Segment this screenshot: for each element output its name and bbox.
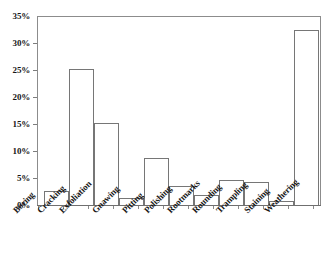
y-tick-label-5: 5% <box>17 174 30 183</box>
y-tick-label-15: 15% <box>13 120 30 129</box>
y-tick-label-35: 35% <box>13 12 30 21</box>
y-tick-label-25: 25% <box>13 66 30 75</box>
y-tick-label-30: 30% <box>13 39 30 48</box>
bar-chart: 35% 30% 25% 20% 15% 10% 5% 0% <box>0 0 326 263</box>
x-axis: Boring Cracking Exfoliation Gnawing Pitt… <box>0 208 326 263</box>
bars-layer <box>38 17 320 205</box>
bar-weathering <box>294 30 319 205</box>
y-tick-label-20: 20% <box>13 93 30 102</box>
y-tick-label-10: 10% <box>13 147 30 156</box>
